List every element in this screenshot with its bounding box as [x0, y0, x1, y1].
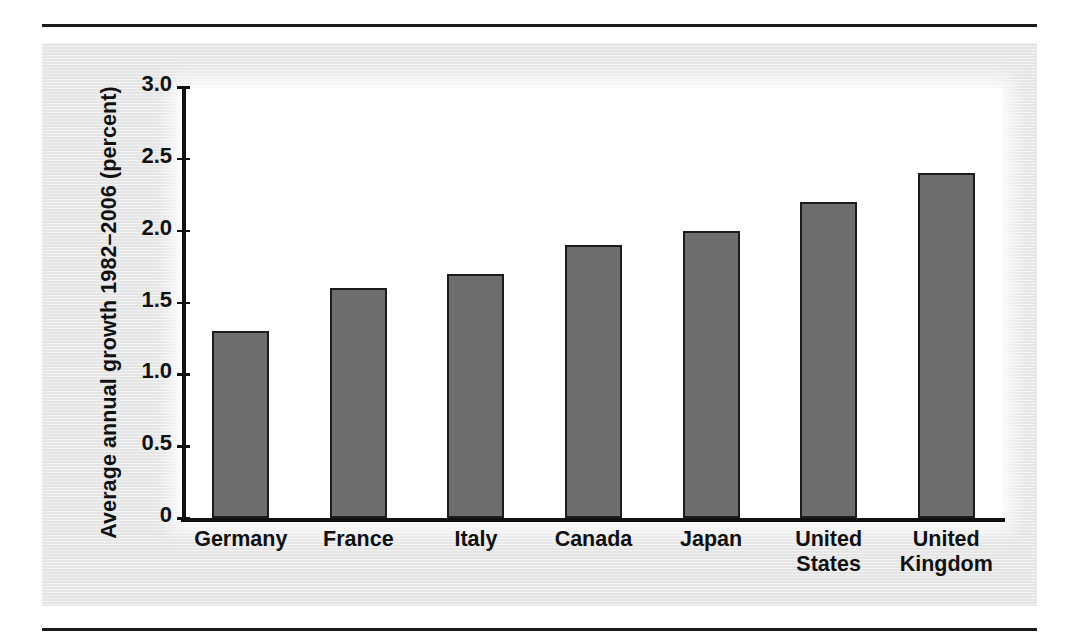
y-tick-label: 1.5 — [102, 289, 172, 311]
x-axis-label: Japan — [644, 527, 778, 552]
x-axis-labels: GermanyFranceItalyCanadaJapanUnitedState… — [182, 527, 1005, 603]
bar — [800, 202, 857, 518]
x-axis-label-line: France — [292, 527, 426, 552]
y-tick-label: 2.0 — [102, 217, 172, 239]
bar — [918, 173, 975, 518]
figure-panel: Average annual growth 1982–2006 (percent… — [42, 43, 1037, 606]
y-tick-label: 3.0 — [102, 73, 172, 95]
bar — [330, 288, 387, 518]
x-axis-label-line: United — [762, 527, 896, 552]
bar — [212, 331, 269, 518]
x-axis-line — [181, 518, 1005, 522]
x-axis-label-line: Kingdom — [879, 552, 1013, 577]
x-axis-label-line: Italy — [409, 527, 543, 552]
bar — [447, 274, 504, 518]
bar — [565, 245, 622, 518]
x-axis-label: France — [292, 527, 426, 552]
x-axis-label: Italy — [409, 527, 543, 552]
page-bottom-rule — [42, 628, 1037, 631]
bar-series — [182, 87, 1005, 518]
page-top-rule — [42, 24, 1037, 27]
bar — [683, 231, 740, 518]
y-tick-label: 1.0 — [102, 360, 172, 382]
y-tick-label: 0 — [102, 504, 172, 526]
x-axis-label: Canada — [527, 527, 661, 552]
x-axis-label: UnitedStates — [762, 527, 896, 578]
x-axis-label-line: States — [762, 552, 896, 577]
x-axis-label-line: Canada — [527, 527, 661, 552]
x-axis-label: UnitedKingdom — [879, 527, 1013, 578]
x-axis-label-line: Germany — [174, 527, 308, 552]
x-axis-label-line: Japan — [644, 527, 778, 552]
x-axis-label-line: United — [879, 527, 1013, 552]
y-tick-label: 0.5 — [102, 432, 172, 454]
x-axis-label: Germany — [174, 527, 308, 552]
y-tick-label: 2.5 — [102, 145, 172, 167]
